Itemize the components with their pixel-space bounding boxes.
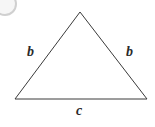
side-label-right-leg: b [126, 45, 133, 59]
side-label-left-leg: b [27, 45, 34, 59]
triangle-figure: b b c [0, 0, 155, 127]
side-label-base: c [76, 104, 82, 118]
